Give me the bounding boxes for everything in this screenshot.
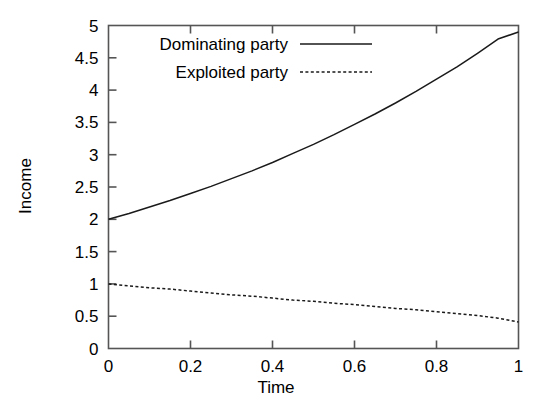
x-tick-label: 0.6 xyxy=(343,358,367,375)
x-tick-label: 0.8 xyxy=(425,358,449,375)
y-axis-title: Income xyxy=(16,158,36,214)
legend-label-2: Exploited party xyxy=(176,64,288,81)
x-tick-label: 0.4 xyxy=(261,358,285,375)
y-tick-label: 0.5 xyxy=(75,308,99,325)
y-tick-label: 2.5 xyxy=(75,179,99,196)
plot-frame xyxy=(109,26,519,349)
x-tick-label: 1 xyxy=(514,358,523,375)
y-axis-title-wrap: Income xyxy=(12,0,40,415)
legend-label-1: Dominating party xyxy=(159,36,288,53)
y-tick-label: 5 xyxy=(89,17,98,34)
x-tick-label: 0.2 xyxy=(179,358,203,375)
curve-exploited-party xyxy=(109,284,519,322)
income-over-time-chart: 00.511.522.533.544.55 00.20.40.60.81 Dom… xyxy=(0,0,552,415)
legend-line-samples xyxy=(300,44,372,72)
y-tick-label: 3 xyxy=(89,146,98,163)
x-tick-label: 0 xyxy=(104,358,113,375)
y-tick-label: 2 xyxy=(89,211,98,228)
y-tick-label: 0 xyxy=(89,340,98,357)
y-tick-label: 3.5 xyxy=(75,114,99,131)
curve-dominating-party xyxy=(109,32,519,219)
x-axis-title: Time xyxy=(0,378,552,398)
data-curves xyxy=(109,32,519,322)
y-tick-label: 1 xyxy=(89,275,98,292)
y-axis-ticks xyxy=(109,58,117,316)
y-tick-label: 1.5 xyxy=(75,243,99,260)
y-tick-label: 4.5 xyxy=(75,49,99,66)
y-tick-label: 4 xyxy=(89,82,98,99)
